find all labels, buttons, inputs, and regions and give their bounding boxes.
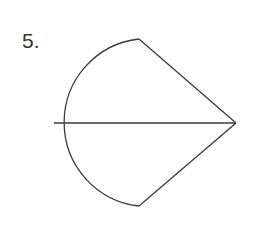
upper-triangle-edge xyxy=(139,39,236,123)
geometry-figure xyxy=(0,0,253,227)
lower-triangle-edge xyxy=(139,123,236,206)
